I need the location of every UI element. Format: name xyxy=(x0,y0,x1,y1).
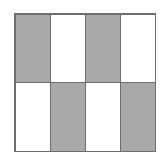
shaded-cell xyxy=(50,82,86,152)
blank-cell xyxy=(120,14,156,84)
fraction-grid xyxy=(14,13,156,152)
shaded-cell xyxy=(15,14,51,84)
blank-cell xyxy=(50,14,86,84)
shaded-cell xyxy=(85,14,121,84)
blank-cell xyxy=(85,82,121,152)
shaded-cell xyxy=(120,82,156,152)
blank-cell xyxy=(15,82,51,152)
